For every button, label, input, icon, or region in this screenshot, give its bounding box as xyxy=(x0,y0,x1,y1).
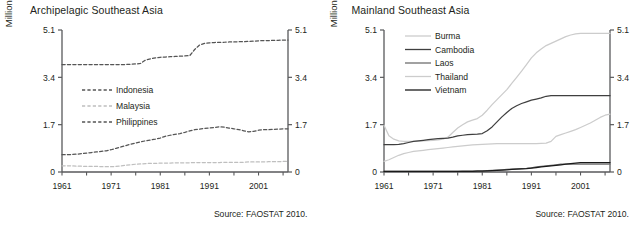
x-tick-label: 1981 xyxy=(151,181,170,191)
figure-root: Archipelagic Southeast Asia Million hect… xyxy=(0,0,643,227)
x-tick-label: 2001 xyxy=(570,181,589,191)
x-tick-label: 2001 xyxy=(249,181,268,191)
legend-label-vietnam: Vietnam xyxy=(435,85,466,95)
y-tick-label-right: 0 xyxy=(295,167,300,177)
plot-area-mainland: 001.71.73.43.45.15.119611971198119912001… xyxy=(322,0,643,227)
y-tick-label-right: 0 xyxy=(617,167,622,177)
legend-label-indonesia: Indonesia xyxy=(116,85,153,95)
y-tick-label-left: 1.7 xyxy=(43,120,55,130)
y-tick-label-left: 5.1 xyxy=(43,25,55,35)
x-tick-label: 1971 xyxy=(102,181,121,191)
y-tick-label-right: 3.4 xyxy=(617,73,629,83)
series-line-malaysia xyxy=(62,161,288,166)
y-tick-label-right: 1.7 xyxy=(295,120,307,130)
x-tick-label: 1961 xyxy=(52,181,71,191)
legend-label-philippines: Philippines xyxy=(116,117,158,127)
x-tick-label: 1991 xyxy=(200,181,219,191)
plot-area-archipelagic: 001.71.73.43.45.15.119611971198119912001… xyxy=(0,0,321,227)
legend-label-cambodia: Cambodia xyxy=(435,45,474,55)
y-tick-label-left: 3.4 xyxy=(365,73,377,83)
x-tick-label: 1991 xyxy=(521,181,540,191)
y-tick-label-left: 1.7 xyxy=(365,120,377,130)
y-tick-label-left: 0 xyxy=(372,167,377,177)
y-tick-label-right: 1.7 xyxy=(617,120,629,130)
x-tick-label: 1961 xyxy=(374,181,393,191)
chart-panel-archipelagic: Archipelagic Southeast Asia Million hect… xyxy=(0,0,322,227)
legend-label-laos: Laos xyxy=(435,58,454,68)
source-note-left: Source: FAOSTAT 2010. xyxy=(214,209,308,219)
y-tick-label-left: 5.1 xyxy=(365,25,377,35)
series-line-indonesia xyxy=(62,40,288,65)
y-tick-label-right: 5.1 xyxy=(617,25,629,35)
chart-panel-mainland: Mainland Southeast Asia Million hectares… xyxy=(322,0,643,227)
y-tick-label-right: 5.1 xyxy=(295,25,307,35)
legend-label-thailand: Thailand xyxy=(435,72,468,82)
series-line-philippines xyxy=(62,127,288,155)
legend-label-burma: Burma xyxy=(435,31,461,41)
y-tick-label-right: 3.4 xyxy=(295,73,307,83)
series-line-cambodia xyxy=(384,96,610,145)
source-note-right: Source: FAOSTAT 2010. xyxy=(535,209,629,219)
y-tick-label-left: 3.4 xyxy=(43,73,55,83)
y-tick-label-left: 0 xyxy=(50,167,55,177)
legend-label-malaysia: Malaysia xyxy=(116,101,150,111)
x-tick-label: 1971 xyxy=(423,181,442,191)
x-tick-label: 1981 xyxy=(472,181,491,191)
